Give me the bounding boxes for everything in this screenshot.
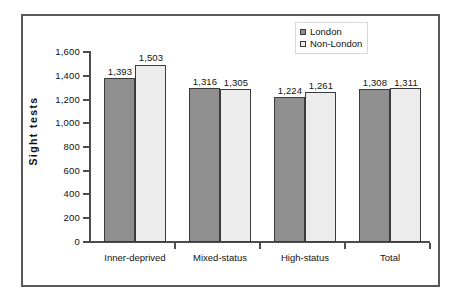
y-tick-label-1600: 1,600: [55, 46, 80, 57]
chart-legend: London Non-London: [295, 22, 368, 54]
x-category-label-high-status: High-status: [260, 252, 350, 263]
bar-london-high-status: [274, 97, 305, 242]
legend-item-nonlondon: Non-London: [300, 38, 362, 49]
bar-london-inner-deprived: [104, 78, 135, 243]
bar-label-london-inner-deprived: 1,393: [100, 66, 140, 77]
x-tick-boundary-3: [344, 243, 346, 249]
bar-nonlondon-total: [390, 88, 421, 242]
bar-london-mixed-status: [189, 88, 220, 242]
bar-label-nonlondon-high-status: 1,261: [301, 80, 341, 91]
chart-figure: Sight tests 0 200 400 600 800 1,000 1,20…: [0, 0, 461, 302]
y-tick-200: [83, 217, 90, 219]
x-tick-boundary-1: [174, 243, 176, 249]
y-tick-1600: [83, 51, 90, 53]
plot-area: Sight tests 0 200 400 600 800 1,000 1,20…: [0, 0, 461, 302]
y-tick-label-200: 200: [64, 212, 80, 223]
y-tick-600: [83, 170, 90, 172]
legend-item-london: London: [300, 26, 362, 37]
y-tick-label-1400: 1,400: [55, 70, 80, 81]
y-tick-1400: [83, 75, 90, 77]
x-tick-boundary-4: [429, 243, 431, 249]
x-category-label-total: Total: [345, 252, 435, 263]
legend-label-london: London: [310, 26, 342, 37]
bar-nonlondon-mixed-status: [220, 89, 251, 242]
bar-nonlondon-high-status: [305, 92, 336, 242]
legend-label-nonlondon: Non-London: [310, 38, 362, 49]
y-tick-label-800: 800: [64, 141, 80, 152]
y-tick-800: [83, 146, 90, 148]
bar-label-nonlondon-mixed-status: 1,305: [216, 77, 256, 88]
y-tick-1000: [83, 122, 90, 124]
y-tick-label-400: 400: [64, 188, 80, 199]
y-tick-label-1000: 1,000: [55, 117, 80, 128]
x-category-label-mixed-status: Mixed-status: [175, 252, 265, 263]
bar-label-nonlondon-inner-deprived: 1,503: [131, 52, 171, 63]
bar-label-nonlondon-total: 1,311: [386, 77, 426, 88]
y-tick-label-600: 600: [64, 165, 80, 176]
y-tick-label-1200: 1,200: [55, 94, 80, 105]
y-tick-400: [83, 193, 90, 195]
y-tick-1200: [83, 99, 90, 101]
y-tick-0: [83, 241, 90, 243]
x-category-label-inner-deprived: Inner-deprived: [90, 252, 180, 263]
legend-swatch-icon-london: [300, 29, 306, 35]
x-tick-boundary-2: [259, 243, 261, 249]
bar-london-total: [359, 89, 390, 242]
y-tick-label-0: 0: [75, 236, 80, 247]
legend-swatch-icon-nonlondon: [300, 41, 306, 47]
y-axis-title: Sight tests: [27, 71, 39, 191]
bar-nonlondon-inner-deprived: [135, 65, 166, 243]
